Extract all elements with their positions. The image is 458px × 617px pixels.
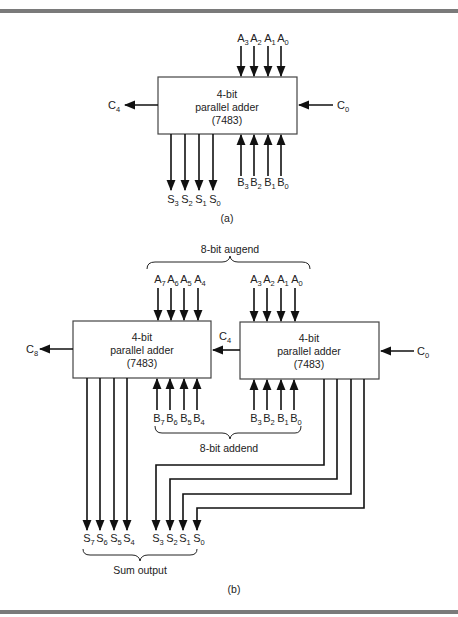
b-high-label: B4 — [193, 412, 205, 427]
augend-label: 8-bit augend — [201, 243, 260, 255]
a-high-inputs: A7A6A5A4 — [154, 273, 206, 320]
part-b: 8-bit augend 4-bit parallel adder (7483)… — [26, 243, 429, 595]
a-inputs-a: A3A2A1A0 — [237, 32, 289, 76]
b-input-label: B0 — [277, 176, 289, 191]
b-input-label: B2 — [250, 176, 262, 191]
addend-label: 8-bit addend — [200, 442, 259, 454]
b-input-label: B1 — [264, 176, 276, 191]
adder-low-line2: parallel adder — [277, 345, 341, 357]
sum-output-label: S1 — [195, 193, 207, 208]
a-low-inputs: A3A2A1A0 — [250, 273, 303, 321]
b-high-label: B5 — [180, 412, 192, 427]
a-input-label: A0 — [277, 32, 289, 47]
sum-output-label: S3 — [167, 193, 179, 208]
sum-brace — [83, 549, 197, 561]
sum-outputs-a: S3S2S1S0 — [167, 134, 221, 208]
b-inputs-a: B3B2B1B0 — [237, 135, 289, 191]
carry-out-label-a: C4 — [108, 99, 120, 114]
adder-high-line2: parallel adder — [110, 344, 174, 356]
sum-high-label: S7 — [83, 532, 95, 547]
sum-output-label: S0 — [209, 193, 221, 208]
sum-low-label: S2 — [166, 532, 178, 547]
b-high-label: B7 — [153, 412, 165, 427]
carry-in-label-b: C0 — [417, 345, 429, 360]
b-high-label: B6 — [166, 412, 178, 427]
a-high-label: A4 — [194, 273, 206, 288]
adder-diagram: 4-bit parallel adder (7483) C4 C0 A3A2A1… — [0, 0, 458, 617]
b-low-inputs: B3B2B1B0 — [250, 380, 302, 427]
top-rule — [0, 9, 458, 13]
sum-output-label: S2 — [181, 193, 193, 208]
a-input-label: A2 — [250, 32, 262, 47]
b-low-label: B2 — [263, 412, 275, 427]
adder-low-line1: 4-bit — [299, 332, 320, 344]
b-input-label: B3 — [237, 176, 249, 191]
b-high-inputs: B7B6B5B4 — [153, 379, 205, 427]
adder-low-line3: (7483) — [294, 358, 324, 370]
a-high-label: A7 — [154, 273, 166, 288]
caption-a: (a) — [221, 212, 234, 224]
a-low-label: A0 — [291, 273, 303, 288]
a-input-label: A3 — [237, 32, 249, 47]
sum-high-label: S5 — [110, 532, 122, 547]
carry-out-label-b: C8 — [26, 343, 38, 358]
a-low-label: A1 — [277, 273, 289, 288]
sum-low-label: S0 — [193, 532, 205, 547]
adder-a-line3: (7483) — [212, 114, 242, 126]
sum-low-label: S1 — [179, 532, 191, 547]
b-low-label: B1 — [277, 412, 289, 427]
caption-b: (b) — [228, 583, 241, 595]
a-input-label: A1 — [264, 32, 276, 47]
augend-brace — [147, 256, 310, 269]
adder-high-line3: (7483) — [127, 357, 157, 369]
sum-label: Sum output — [113, 564, 167, 576]
b-low-label: B0 — [290, 412, 302, 427]
sum-high-label: S4 — [123, 532, 135, 547]
adder-a-line2: parallel adder — [195, 101, 259, 113]
sum-low-label: S3 — [152, 532, 164, 547]
a-low-label: A3 — [250, 273, 262, 288]
carry-middle-label: C4 — [219, 330, 231, 345]
a-high-label: A5 — [180, 273, 192, 288]
bottom-rule — [0, 610, 458, 614]
adder-a-line1: 4-bit — [217, 88, 238, 100]
a-high-label: A6 — [167, 273, 179, 288]
part-a: 4-bit parallel adder (7483) C4 C0 A3A2A1… — [108, 32, 349, 224]
a-low-label: A2 — [263, 273, 275, 288]
sum-high-outputs: S7S6S5S4 — [83, 378, 135, 547]
sum-high-label: S6 — [96, 532, 108, 547]
carry-in-label-a: C0 — [337, 99, 349, 114]
addend-brace — [155, 426, 301, 439]
adder-high-line1: 4-bit — [132, 331, 153, 343]
b-low-label: B3 — [250, 412, 262, 427]
